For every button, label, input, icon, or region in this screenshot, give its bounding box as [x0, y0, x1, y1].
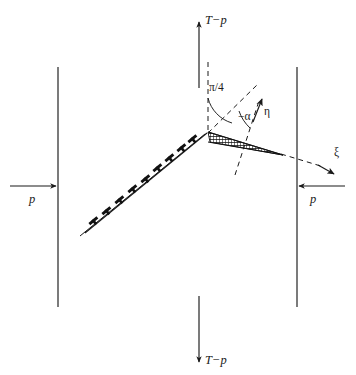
die-face-hatch-teeth [88, 134, 199, 227]
label-angle-pi-over-4: π/4 [209, 82, 224, 94]
angle-arc-pi-over-4 [208, 98, 232, 123]
xi-axis-arrow [318, 165, 334, 174]
label-axis-xi: ξ [334, 147, 339, 159]
label-angle-minus-alpha: −α [238, 111, 251, 123]
xi-axis-dashed-line [281, 154, 324, 167]
eta-axis-arrow [253, 99, 262, 122]
label-tension-top: T−p [205, 14, 227, 27]
die-face-upper-line [85, 133, 207, 233]
figure-canvas: T−p T−p p p π/4 −α η ξ [0, 0, 356, 375]
label-axis-eta: η [264, 106, 270, 118]
mechanics-wedge-diagram [0, 0, 356, 375]
label-pressure-right: p [310, 193, 316, 206]
die-face-lower-line [80, 134, 205, 236]
label-tension-bottom: T−p [205, 354, 227, 367]
label-pressure-left: p [29, 193, 35, 206]
